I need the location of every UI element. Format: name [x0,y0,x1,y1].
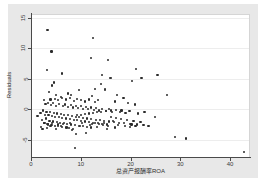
scatter-point [67,92,69,94]
scatter-point [54,98,56,100]
scatter-point [100,111,102,113]
scatter-point [55,128,57,130]
scatter-point [115,109,117,111]
scatter-point [57,123,59,125]
y-axis-tick-label: 5 [22,77,28,80]
scatter-point [95,119,97,121]
x-axis-tick-label: 40 [227,161,234,167]
scatter-point [74,147,76,149]
scatter-point [61,97,63,99]
scatter-point [88,112,90,114]
scatter-point [61,117,63,119]
scatter-point [59,122,61,124]
scatter-point [84,100,86,102]
scatter-point [99,119,101,121]
scatter-point [61,72,63,74]
scatter-point [82,125,84,127]
scatter-point [50,104,52,106]
scatter-point [73,100,75,102]
scatter-point [47,102,49,104]
scatter-point [55,94,57,96]
scatter-point [60,113,62,115]
scatter-point [36,115,38,117]
scatter-point [142,124,144,126]
scatter-point [66,123,68,125]
scatter-point [41,119,43,121]
scatter-point [112,120,114,122]
scatter-point [91,123,93,125]
scatter-point [126,119,128,121]
scatter-point [69,118,71,120]
scatter-point [110,116,112,118]
scatter-point [135,68,137,70]
chart-screenshot: Residuals -5051015 总资产报酬率ROA 010203040 [0,0,262,188]
scatter-point [44,114,46,116]
scatter-point [68,127,70,129]
gridline-horizontal [31,109,249,110]
scatter-point [67,106,69,108]
scatter-point [124,112,126,114]
scatter-point [120,109,122,111]
scatter-point [58,116,60,118]
scatter-point [69,97,71,99]
scatter-point [46,127,48,129]
scatter-point [49,111,51,113]
scatter-point [45,111,47,113]
scatter-point [97,99,99,101]
x-axis-tick-label: 20 [127,161,134,167]
scatter-point [54,116,56,118]
scatter-point [56,112,58,114]
scatter-point [43,99,45,101]
scatter-point [42,109,44,111]
y-axis-title: Residuals [6,72,12,98]
scatter-point [90,106,92,108]
scatter-point [85,132,87,134]
scatter-point [49,98,51,100]
scatter-point [105,110,107,112]
scatter-point [51,84,53,86]
scatter-point [101,108,103,110]
x-axis-tick-label: 0 [29,161,32,167]
scatter-point [174,136,176,138]
scatter-point [94,122,96,124]
scatter-point [52,102,54,104]
scatter-point [140,77,142,79]
scatter-point [76,98,78,100]
scatter-point [124,125,126,127]
scatter-point [90,57,92,59]
scatter-point [139,121,141,123]
scatter-point [154,116,156,118]
scatter-point [54,125,56,127]
x-axis-line [31,157,251,158]
scatter-point [92,112,94,114]
scatter-point [65,117,67,119]
scatter-point [75,133,77,135]
scatter-point [53,81,55,83]
scatter-point [114,100,116,102]
scatter-point [86,117,88,119]
scatter-point [41,128,43,130]
scatter-point [39,112,41,114]
scatter-point [46,69,48,71]
scatter-point [243,151,245,153]
scatter-point [47,114,49,116]
scatter-point [134,103,136,105]
x-axis-tick-label: 10 [77,161,84,167]
y-axis-tick-label: -5 [21,137,27,142]
scatter-point [115,117,117,119]
gridline-horizontal [31,79,249,80]
scatter-point [147,125,149,127]
scatter-point [137,112,139,114]
y-axis-tick-label: 0 [22,108,28,111]
y-axis-tick-label: 15 [21,15,27,22]
scatter-point [45,117,47,119]
x-axis-title: 总资产报酬率ROA [31,168,250,174]
scatter-point [104,89,106,91]
scatter-point [51,115,53,117]
scatter-point [84,120,86,122]
scatter-point [128,110,130,112]
scatter-point [50,50,52,52]
scatter-point [100,83,102,85]
scatter-point [84,113,86,115]
scatter-point [127,102,129,104]
